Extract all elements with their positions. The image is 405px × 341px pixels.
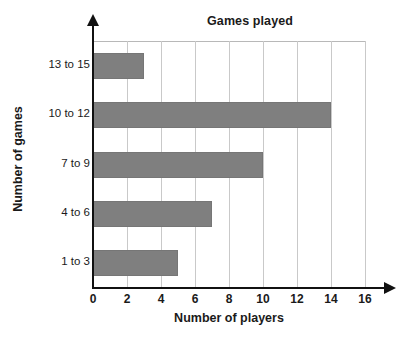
plot-area (93, 41, 365, 288)
x-axis-tick-label: 6 (180, 292, 210, 306)
chart-title: Games played (140, 14, 360, 28)
gridline (297, 41, 298, 288)
gridline (331, 41, 332, 288)
bar (93, 250, 178, 276)
bar (93, 53, 144, 79)
bar-chart: Games played 0246810121416 1 to 34 to 67… (0, 0, 405, 341)
x-axis-tick-label: 8 (214, 292, 244, 306)
x-axis-tick-label: 14 (316, 292, 346, 306)
x-axis-line (92, 287, 386, 289)
bar (93, 102, 331, 128)
y-axis-tick-label: 13 to 15 (4, 58, 90, 70)
x-axis-tick-label: 4 (146, 292, 176, 306)
x-axis-tick-label: 12 (282, 292, 312, 306)
x-axis-tick-label: 16 (350, 292, 380, 306)
bar (93, 152, 263, 178)
y-axis-title: Number of games (11, 79, 25, 239)
x-axis-title: Number of players (93, 311, 365, 325)
x-axis-arrow-icon (384, 282, 396, 294)
x-axis-tick-label: 2 (112, 292, 142, 306)
bar (93, 201, 212, 227)
gridline (263, 41, 264, 288)
y-axis-tick-label: 1 to 3 (4, 255, 90, 267)
gridline (365, 41, 366, 288)
x-axis-tick-label: 10 (248, 292, 278, 306)
y-axis-line (92, 24, 94, 289)
